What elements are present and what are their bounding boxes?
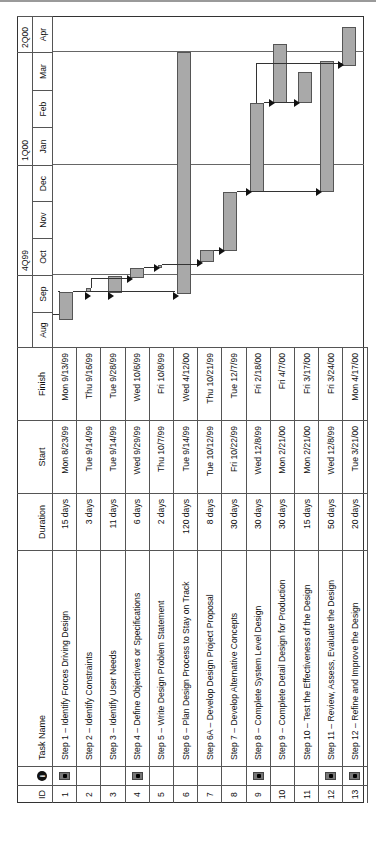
task-name: Step 6A – Develop Design Project Proposa… (198, 550, 222, 766)
task-id: 7 (198, 785, 222, 803)
task-id: 8 (222, 785, 246, 803)
bar-task-11[interactable] (298, 72, 312, 103)
task-start: Tue 9/14/99 (101, 420, 125, 493)
task-start: Mon 2/21/00 (295, 420, 319, 493)
task-finish: Tue 12/7/99 (222, 347, 246, 420)
task-finish: Fri 3/17/00 (295, 347, 319, 420)
task-indicator (271, 766, 295, 785)
bar-task-8[interactable] (223, 192, 237, 251)
quarter-4q99: 4Q99 (17, 165, 33, 275)
task-duration: 120 days (174, 493, 198, 550)
month-sep: Sep (33, 275, 53, 312)
task-id: 4 (126, 785, 150, 803)
task-start: Tue 10/12/99 (198, 420, 222, 493)
task-start: Wed 12/8/99 (247, 420, 271, 493)
task-id: 3 (101, 785, 125, 803)
task-indicator (222, 766, 246, 785)
task-duration: 30 days (247, 493, 271, 550)
task-name: Step 8 – Complete System Level Design (247, 550, 271, 766)
task-finish: Fri 10/8/99 (150, 347, 174, 420)
task-finish: Fri 4/7/00 (271, 347, 295, 420)
quarter-3q99 (17, 275, 33, 347)
task-finish: Wed 10/6/99 (126, 347, 150, 420)
task-start: Thu 10/7/99 (150, 420, 174, 493)
task-duration: 15 days (53, 493, 77, 550)
task-finish: Thu 10/21/99 (198, 347, 222, 420)
task-name: Step 5 – Write Design Problem Statement (150, 550, 174, 766)
task-finish: Fri 3/24/00 (319, 347, 343, 420)
month-oct: Oct (33, 238, 53, 275)
bar-task-6[interactable] (177, 52, 191, 294)
task-start: Fri 10/22/99 (222, 420, 246, 493)
month-jan: Jan (33, 127, 53, 165)
task-duration: 6 days (126, 493, 150, 550)
month-feb: Feb (33, 90, 53, 127)
task-indicator (343, 766, 367, 785)
task-indicator (53, 766, 77, 785)
task-start: Mon 8/23/99 (53, 420, 77, 493)
task-duration: 50 days (319, 493, 343, 550)
quarter-2q00: 2Q00 (17, 16, 33, 52)
task-finish: Thu 9/16/99 (77, 347, 101, 420)
task-indicator (126, 766, 150, 785)
month-apr: Apr (33, 16, 53, 52)
scan-edge (0, 0, 376, 2)
task-name: Step 2 – Identify Constraints (77, 550, 101, 766)
month-mar: Mar (33, 52, 53, 90)
task-name: Step 10 – Test the Effectiveness of the … (295, 550, 319, 766)
task-id: 1 (53, 785, 77, 803)
task-name: Step 6 – Plan Design Process to Stay on … (174, 550, 198, 766)
task-start: Wed 12/8/99 (319, 420, 343, 493)
task-start: Tue 9/14/99 (77, 420, 101, 493)
bar-task-1[interactable] (59, 292, 73, 320)
info-icon: i (37, 771, 47, 781)
task-indicator (77, 766, 101, 785)
quarter-1q00: 1Q00 (17, 52, 33, 165)
task-duration: 11 days (101, 493, 125, 550)
task-id: 6 (174, 785, 198, 803)
month-dec: Dec (33, 165, 53, 201)
header-duration: Duration (17, 493, 53, 550)
note-indicator-icon[interactable] (132, 772, 143, 780)
task-duration: 2 days (150, 493, 174, 550)
task-indicator (150, 766, 174, 785)
task-name: Step 7 – Develop Alternative Concepts (222, 550, 246, 766)
note-indicator-icon[interactable] (349, 772, 360, 780)
task-finish: Mon 4/17/00 (343, 347, 367, 420)
note-indicator-icon[interactable] (325, 772, 336, 780)
task-indicator (198, 766, 222, 785)
header-finish: Finish (17, 347, 53, 420)
task-start: Mon 2/21/00 (271, 420, 295, 493)
task-finish: Tue 9/28/99 (101, 347, 125, 420)
task-id: 10 (271, 785, 295, 803)
gridline-1q00 (53, 164, 364, 165)
note-indicator-icon[interactable] (59, 772, 70, 780)
task-id: 9 (247, 785, 271, 803)
task-name: Step 1 – Identify Forces Driving Design (53, 550, 77, 766)
task-duration: 15 days (295, 493, 319, 550)
task-duration: 30 days (271, 493, 295, 550)
task-start: Wed 9/29/99 (126, 420, 150, 493)
task-duration: 3 days (77, 493, 101, 550)
task-indicator (295, 766, 319, 785)
task-finish: Fri 2/18/00 (247, 347, 271, 420)
task-duration: 20 days (343, 493, 367, 550)
task-duration: 8 days (198, 493, 222, 550)
header-task-name: Task Name (17, 550, 53, 766)
note-indicator-icon[interactable] (253, 772, 264, 780)
bar-task-10[interactable] (273, 44, 287, 103)
gantt-sheet: ID i Task Name Duration Start Finish 4Q9… (17, 15, 365, 803)
gridline-2q00 (53, 51, 364, 52)
bar-task-12[interactable] (320, 61, 334, 192)
task-name: Step 9 – Complete Detail Design for Prod… (271, 550, 295, 766)
task-indicator (247, 766, 271, 785)
task-id: 13 (343, 785, 367, 803)
bar-task-13[interactable] (342, 27, 356, 66)
task-id: 11 (295, 785, 319, 803)
gridline-4q99 (53, 274, 364, 275)
bar-task-9[interactable] (250, 103, 264, 192)
task-id: 2 (77, 785, 101, 803)
task-duration: 30 days (222, 493, 246, 550)
header-start: Start (17, 420, 53, 493)
task-start: Tue 3/21/00 (343, 420, 367, 493)
